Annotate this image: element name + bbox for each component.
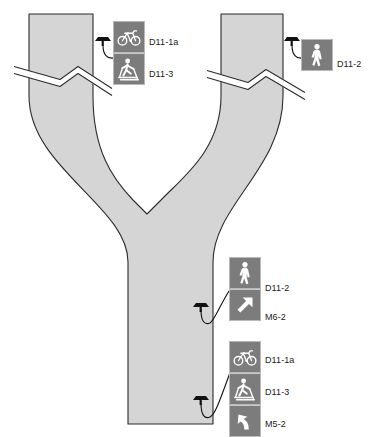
sign-label-D11-2: D11-2 xyxy=(265,284,289,293)
sign-panel-stack[interactable] xyxy=(113,21,145,85)
sign-label-D11-3: D11-3 xyxy=(265,388,289,397)
arrow-diagonal-icon xyxy=(230,290,260,320)
pedestrian-icon xyxy=(230,258,260,288)
sign-label-M6-2: M6-2 xyxy=(265,313,286,322)
sign-label-D11-1a: D11-1a xyxy=(149,38,178,47)
sign-panel-D11-2[interactable] xyxy=(301,39,333,71)
sign-label-D11-1a: D11-1a xyxy=(265,356,294,365)
sign-panel-D11-1a[interactable] xyxy=(229,341,261,373)
sign-panel-stack[interactable] xyxy=(229,257,261,321)
sign-label-D11-3: D11-3 xyxy=(149,70,173,79)
sign-panel-D11-2[interactable] xyxy=(229,257,261,289)
bicycle-icon xyxy=(114,22,144,52)
sign-panel-M6-2[interactable] xyxy=(229,289,261,321)
skier-icon xyxy=(114,54,144,84)
skier-icon xyxy=(230,374,260,404)
sign-label-D11-2: D11-2 xyxy=(337,60,361,69)
sign-label-M5-2: M5-2 xyxy=(265,420,286,429)
arrow-curved-icon xyxy=(230,406,260,436)
bicycle-icon xyxy=(230,342,260,372)
sign-panel-D11-3[interactable] xyxy=(113,53,145,85)
sign-panel-D11-3[interactable] xyxy=(229,373,261,405)
sign-panel-D11-1a[interactable] xyxy=(113,21,145,53)
sign-panel-stack[interactable] xyxy=(301,39,333,71)
sign-panel-M5-2[interactable] xyxy=(229,405,261,437)
pedestrian-icon xyxy=(302,40,332,70)
sign-panel-stack[interactable] xyxy=(229,341,261,437)
